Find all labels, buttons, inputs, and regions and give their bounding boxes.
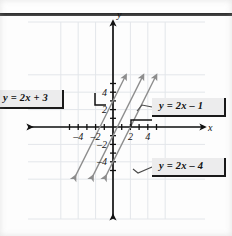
x-tick-label: 2 (128, 131, 133, 142)
y-tick-label: 4 (102, 87, 107, 98)
y-tick-label: –2 (96, 139, 107, 150)
grid-lines (28, 22, 205, 219)
line-label-y-2x-minus-4: y = 2x – 4 (152, 158, 226, 177)
y-tick-label: 2 (102, 104, 107, 115)
x-tick-label: –4 (72, 131, 83, 142)
line-label-y-2x-plus-3: y = 2x + 3 (0, 90, 64, 109)
y-axis-label: y (116, 9, 122, 20)
x-tick-label: 4 (145, 131, 150, 142)
figure-canvas: –4–224–4–224 xy y = 2x + 3 y = 2x – 1 y … (0, 0, 232, 236)
coordinate-plane: –4–224–4–224 xy (0, 0, 232, 236)
axes (30, 23, 203, 217)
x-axis-label: x (207, 122, 213, 133)
line-label-y-2x-minus-1: y = 2x – 1 (152, 98, 226, 117)
y-tick-label: –4 (96, 156, 107, 167)
leader-line-3 (133, 167, 152, 173)
